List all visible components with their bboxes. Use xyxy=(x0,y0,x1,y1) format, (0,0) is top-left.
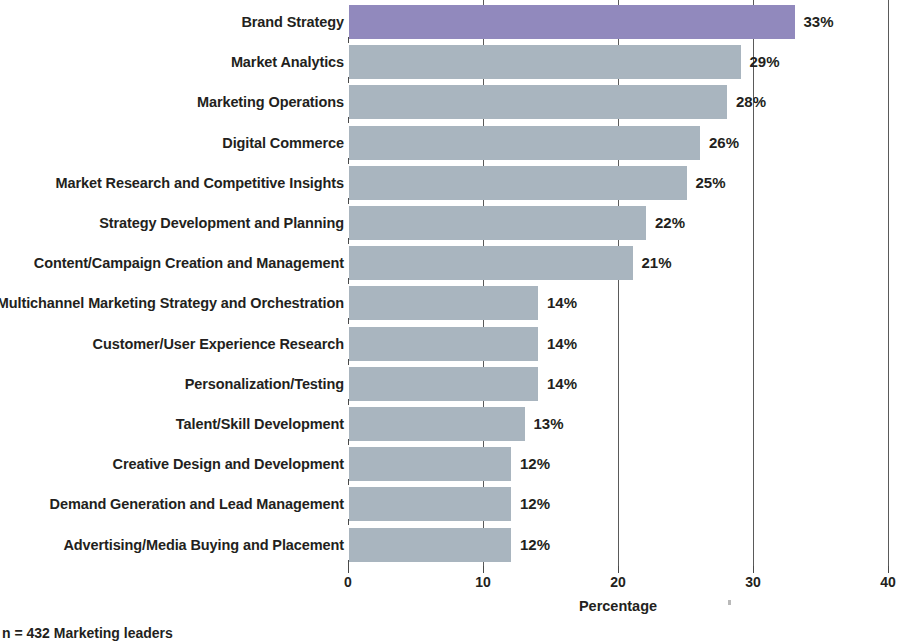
category-label: Content/Campaign Creation and Management xyxy=(34,244,344,282)
bar[interactable] xyxy=(349,206,646,240)
bar-row[interactable]: Market Research and Competitive Insights… xyxy=(0,164,919,202)
bar-value-label: 29% xyxy=(750,43,780,81)
bar-value-label: 12% xyxy=(520,445,550,483)
bar-row[interactable]: Digital Commerce26% xyxy=(0,124,919,162)
bar[interactable] xyxy=(349,45,741,79)
bar[interactable] xyxy=(349,367,538,401)
y-axis-tick xyxy=(348,359,349,365)
category-label: Customer/User Experience Research xyxy=(93,325,344,363)
bar-value-label: 26% xyxy=(709,124,739,162)
bar-value-label: 25% xyxy=(696,164,726,202)
x-axis-title: Percentage xyxy=(579,598,657,614)
bar-value-label: 28% xyxy=(736,83,766,121)
y-axis-tick xyxy=(348,158,349,164)
x-axis-tick-10 xyxy=(483,566,484,573)
bar-value-label: 14% xyxy=(547,284,577,322)
x-axis-tick-0 xyxy=(348,566,349,573)
bar[interactable] xyxy=(349,327,538,361)
y-axis-tick xyxy=(348,37,349,43)
category-label: Market Research and Competitive Insights xyxy=(56,164,345,202)
bar-row[interactable]: Marketing Operations28% xyxy=(0,83,919,121)
x-axis-tick-40 xyxy=(888,566,889,573)
bar[interactable] xyxy=(349,166,687,200)
bar-row[interactable]: Brand Strategy33% xyxy=(0,3,919,41)
chart-footnote: n = 432 Marketing leaders xyxy=(2,625,173,641)
bar-row[interactable]: Multichannel Marketing Strategy and Orch… xyxy=(0,284,919,322)
x-axis-tick-20 xyxy=(618,566,619,573)
bar-row[interactable]: Content/Campaign Creation and Management… xyxy=(0,244,919,282)
category-label: Digital Commerce xyxy=(222,124,344,162)
y-axis-tick xyxy=(348,238,349,244)
bar[interactable] xyxy=(349,126,700,160)
bar-row[interactable]: Personalization/Testing14% xyxy=(0,365,919,403)
bar-row[interactable]: Demand Generation and Lead Management12% xyxy=(0,485,919,523)
bar-row[interactable]: Customer/User Experience Research14% xyxy=(0,325,919,363)
category-label: Multichannel Marketing Strategy and Orch… xyxy=(0,284,344,322)
bar[interactable] xyxy=(349,85,727,119)
x-axis-tick-label: 0 xyxy=(344,574,352,590)
category-label: Market Analytics xyxy=(231,43,344,81)
bar[interactable] xyxy=(349,528,511,562)
bar[interactable] xyxy=(349,487,511,521)
y-axis-tick xyxy=(348,77,349,83)
bar-row[interactable]: Advertising/Media Buying and Placement12… xyxy=(0,526,919,564)
y-axis-tick xyxy=(348,117,349,123)
x-axis-tick-label: 40 xyxy=(880,574,896,590)
x-axis-tick-label: 20 xyxy=(610,574,626,590)
y-axis-tick xyxy=(348,318,349,324)
bar-row[interactable]: Talent/Skill Development13% xyxy=(0,405,919,443)
category-label: Marketing Operations xyxy=(197,83,344,121)
x-axis-tick-30 xyxy=(753,566,754,573)
bar-value-label: 33% xyxy=(804,3,834,41)
y-axis-tick xyxy=(348,560,349,566)
category-label: Brand Strategy xyxy=(241,3,344,41)
x-axis-tick-label: 30 xyxy=(745,574,761,590)
category-label: Strategy Development and Planning xyxy=(99,204,344,242)
y-axis-tick xyxy=(348,519,349,525)
y-axis-tick xyxy=(348,198,349,204)
category-label: Talent/Skill Development xyxy=(176,405,344,443)
bar-value-label: 14% xyxy=(547,325,577,363)
bar[interactable] xyxy=(349,447,511,481)
bar-value-label: 22% xyxy=(655,204,685,242)
category-label: Advertising/Media Buying and Placement xyxy=(63,526,344,564)
bar[interactable] xyxy=(349,246,633,280)
bar-value-label: 12% xyxy=(520,526,550,564)
bar-row[interactable]: Market Analytics29% xyxy=(0,43,919,81)
bar-value-label: 13% xyxy=(534,405,564,443)
bar[interactable] xyxy=(349,5,795,39)
bar-value-label: 12% xyxy=(520,485,550,523)
plot-area: Brand Strategy33%Market Analytics29%Mark… xyxy=(0,0,919,566)
category-label: Creative Design and Development xyxy=(113,445,344,483)
bar-chart: Brand Strategy33%Market Analytics29%Mark… xyxy=(0,0,919,644)
y-axis-tick xyxy=(348,278,349,284)
bar[interactable] xyxy=(349,286,538,320)
bar-row[interactable]: Strategy Development and Planning22% xyxy=(0,204,919,242)
x-axis-tick-label: 10 xyxy=(475,574,491,590)
scan-artifact xyxy=(728,600,731,605)
bar-value-label: 14% xyxy=(547,365,577,403)
y-axis-tick xyxy=(348,399,349,405)
bar-value-label: 21% xyxy=(642,244,672,282)
category-label: Personalization/Testing xyxy=(185,365,344,403)
bar[interactable] xyxy=(349,407,525,441)
y-axis-tick xyxy=(348,439,349,445)
category-label: Demand Generation and Lead Management xyxy=(50,485,344,523)
bar-row[interactable]: Creative Design and Development12% xyxy=(0,445,919,483)
y-axis-tick xyxy=(348,479,349,485)
